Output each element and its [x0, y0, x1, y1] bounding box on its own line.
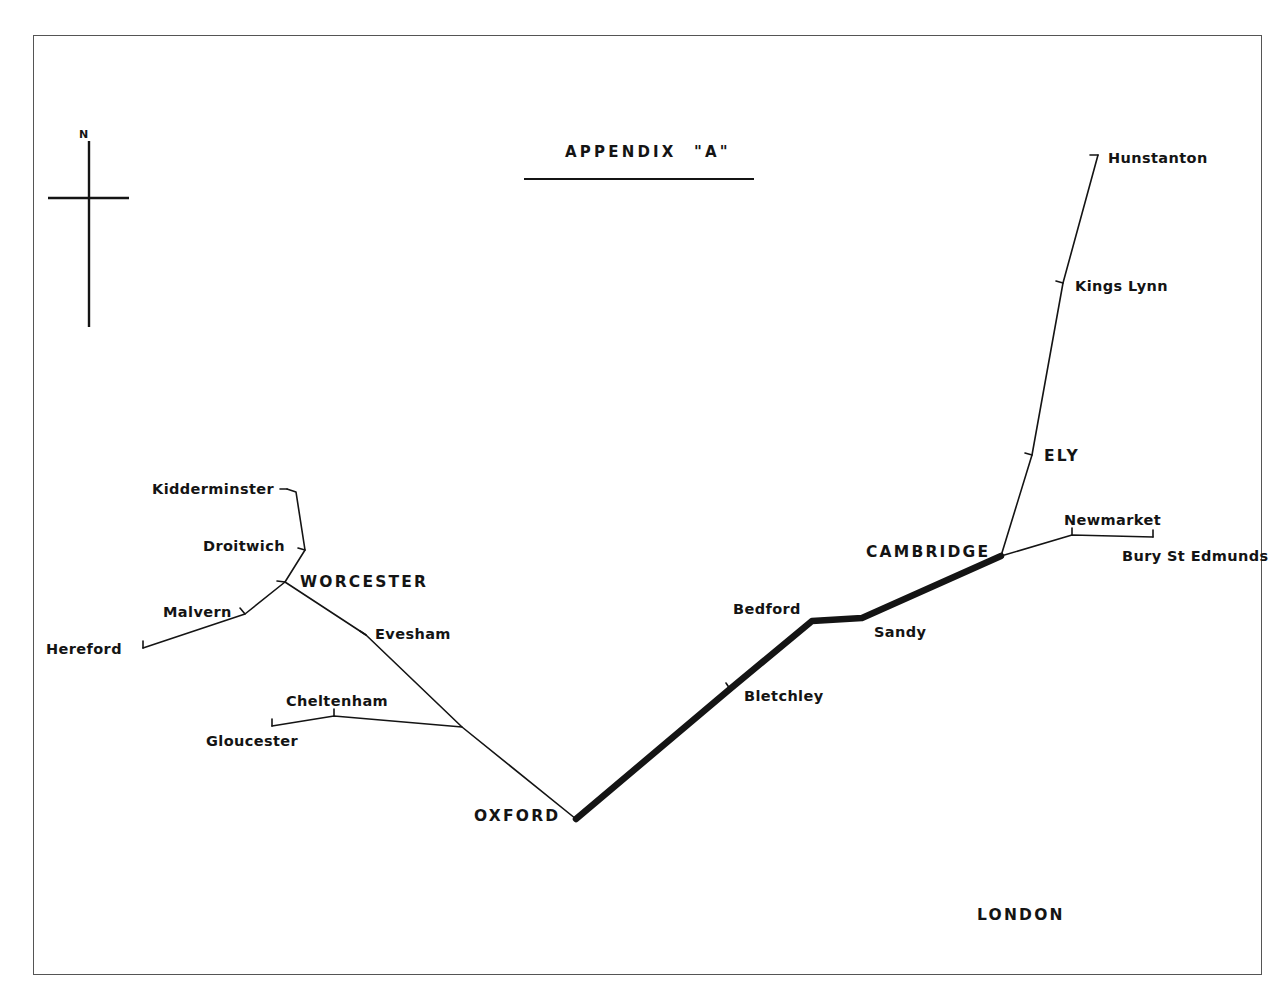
railway-route-diagram: [0, 0, 1285, 1007]
station-label-droitwich: Droitwich: [203, 538, 285, 554]
station-label-malvern: Malvern: [163, 604, 232, 620]
route-cambridge-ely-kings-lynn-hunstanton: [1001, 155, 1098, 556]
station-label-cheltenham: Cheltenham: [286, 693, 388, 709]
station-label-worcester: WORCESTER: [300, 573, 428, 591]
station-label-bedford: Bedford: [733, 601, 801, 617]
station-tick-ely: [1025, 453, 1032, 455]
station-label-bury-st-edmunds: Bury St Edmunds: [1122, 548, 1269, 564]
station-tick-malvern: [240, 608, 245, 614]
station-label-newmarket: Newmarket: [1064, 512, 1161, 528]
station-label-ely: ELY: [1044, 447, 1080, 465]
station-tick-kings-lynn: [1056, 281, 1063, 283]
station-label-hunstanton: Hunstanton: [1108, 150, 1208, 166]
station-tick-worcester: [277, 581, 285, 582]
station-label-sandy: Sandy: [874, 624, 926, 640]
routes-layer: [143, 155, 1153, 819]
station-label-kings-lynn: Kings Lynn: [1075, 278, 1168, 294]
station-label-cambridge: CAMBRIDGE: [866, 543, 990, 561]
station-label-hereford: Hereford: [46, 641, 122, 657]
station-label-kidderminster: Kidderminster: [152, 481, 274, 497]
route-gloucester-cheltenham-junction: [272, 716, 462, 727]
compass-rose-icon: [48, 141, 129, 327]
map-page: APPENDIX "A" N HunstantonKings LynnELYNe…: [0, 0, 1285, 1007]
route-kidderminster-worcester: [285, 489, 305, 582]
station-label-london: LONDON: [977, 906, 1065, 924]
station-ticks-layer: [143, 155, 1153, 726]
station-tick-evesham: [360, 631, 366, 635]
station-label-gloucester: Gloucester: [206, 733, 298, 749]
station-label-oxford: OXFORD: [474, 807, 560, 825]
station-label-bletchley: Bletchley: [744, 688, 824, 704]
station-label-evesham: Evesham: [375, 626, 451, 642]
